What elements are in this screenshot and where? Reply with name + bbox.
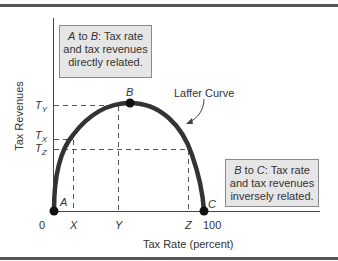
point-a-marker (50, 207, 59, 216)
note-bc-b: B (234, 164, 241, 176)
y-tick-ty: TY (35, 99, 47, 114)
guide-lines (54, 106, 189, 212)
x-tick-z: Z (185, 219, 192, 231)
y-axis-title: Tax Revenues (13, 81, 25, 151)
point-b-marker (126, 99, 135, 108)
note-ab-line2: and tax revenues (60, 43, 151, 56)
tx-main: T (35, 129, 42, 141)
curve-label: Laffer Curve (174, 87, 234, 99)
ty-sub: Y (42, 105, 47, 114)
x-tick-x: X (70, 219, 77, 231)
x-axis-title: Tax Rate (percent) (143, 238, 233, 250)
note-ab-to: to (75, 30, 90, 42)
laffer-chart (0, 0, 338, 261)
note-ab-rest: : Tax rate (98, 30, 143, 42)
x-tick-y: Y (115, 219, 122, 231)
note-a-to-b: A to B: Tax rate and tax revenues direct… (59, 25, 152, 78)
callout-arrow (188, 99, 204, 123)
x-tick-origin: 0 (39, 219, 45, 231)
ty-main: T (35, 99, 42, 111)
note-b-to-c: B to C: Tax rate and tax revenues invers… (225, 159, 319, 207)
point-a-label: A (60, 196, 67, 208)
laffer-curve (54, 103, 204, 211)
tz-main: T (35, 142, 42, 154)
point-c-label: C (208, 198, 216, 210)
callout-arrowhead (186, 118, 193, 124)
y-tick-tz: TZ (35, 142, 47, 157)
note-ab-line3: directly related. (60, 56, 151, 69)
note-bc-to: to (242, 164, 257, 176)
x-tick-100: 100 (203, 219, 221, 231)
note-bc-c: C (257, 164, 265, 176)
note-bc-line3: inversely related. (226, 190, 318, 203)
note-bc-rest: : Tax rate (265, 164, 310, 176)
note-bc-line2: and tax revenues (226, 177, 318, 190)
tz-sub: Z (42, 148, 47, 157)
point-b-label: B (126, 86, 133, 98)
note-ab-b: B (91, 30, 98, 42)
